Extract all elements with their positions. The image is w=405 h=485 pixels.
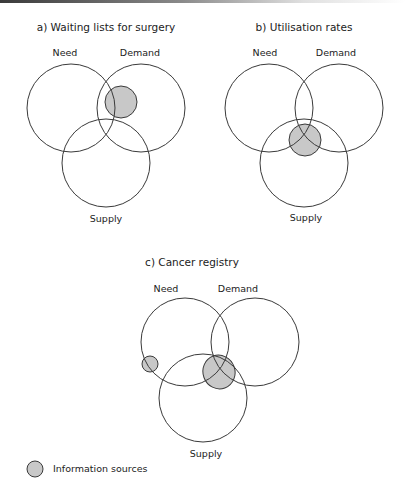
diagram-c: c) Cancer registry Need Demand Supply	[141, 256, 299, 459]
diagram-a-supply-circle	[62, 119, 150, 207]
diagram-b-demand-label: Demand	[316, 47, 356, 58]
legend-label: Information sources	[53, 463, 148, 474]
diagram-b-demand-circle	[295, 64, 383, 152]
diagram-a: a) Waiting lists for surgery Need Demand…	[27, 21, 185, 224]
diagram-a-information-source	[105, 86, 137, 118]
legend: Information sources	[27, 461, 148, 477]
diagram-a-demand-label: Demand	[120, 47, 160, 58]
diagram-b-supply-label: Supply	[290, 212, 323, 223]
diagram-c-demand-label: Demand	[218, 283, 258, 294]
diagram-b-title: b) Utilisation rates	[256, 21, 353, 33]
diagram-b-information-source	[289, 124, 321, 156]
diagram-a-title: a) Waiting lists for surgery	[37, 21, 176, 33]
legend-swatch-icon	[27, 461, 43, 477]
diagram-c-need-circle	[141, 298, 229, 386]
diagram-c-demand-circle	[211, 298, 299, 386]
diagram-b-need-label: Need	[253, 47, 278, 58]
diagram-c-need-label: Need	[154, 283, 179, 294]
diagram-c-supply-label: Supply	[190, 448, 223, 459]
diagram-b: b) Utilisation rates Need Demand Supply	[225, 21, 383, 223]
venn-diagrams: a) Waiting lists for surgery Need Demand…	[0, 0, 405, 485]
diagram-a-supply-label: Supply	[90, 213, 123, 224]
diagram-a-need-label: Need	[53, 47, 78, 58]
diagram-a-need-circle	[27, 64, 115, 152]
diagram-b-need-circle	[225, 64, 313, 152]
diagram-c-title: c) Cancer registry	[145, 256, 239, 268]
